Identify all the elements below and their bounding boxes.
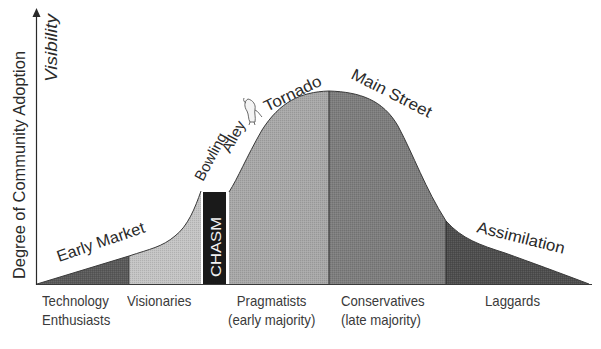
y-axis-arrow-icon	[33, 8, 41, 17]
segment-label-visionaries: Visionaries	[127, 291, 191, 310]
segment-label-pragmatists: Pragmatists (early majority)	[228, 291, 315, 329]
tornado-icon	[244, 98, 262, 125]
segment-label-technology-enthusiasts: Technology Enthusiasts	[42, 291, 110, 329]
chasm-label: CHASM	[207, 217, 224, 277]
segment-label-laggards: Laggards	[485, 291, 540, 310]
segment-label-conservatives: Conservatives (late majority)	[341, 291, 425, 329]
y-axis-sublabel: Visibility	[43, 13, 60, 82]
y-axis-label: Degree of Community Adoption	[11, 51, 28, 279]
